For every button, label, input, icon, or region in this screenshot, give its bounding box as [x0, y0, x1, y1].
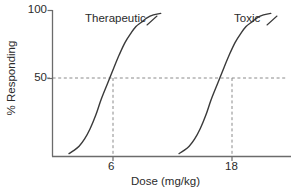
y-axis-tick-label-50: 50 [34, 72, 47, 84]
dose-response-chart: 100 50 % Responding 6 18 Dose (mg/kg) Th… [0, 0, 296, 194]
x-axis-tick-label-18: 18 [225, 161, 238, 173]
y-axis-title-container: % Responding [0, 0, 22, 156]
curve-toxic [179, 13, 271, 153]
curve-therapeutic [69, 13, 161, 153]
x-axis-tick-label-6: 6 [108, 161, 114, 173]
curve-label-toxic: Toxic [234, 13, 260, 25]
curve-label-therapeutic: Therapeutic [85, 13, 146, 25]
x-axis-title: Dose (mg/kg) [131, 176, 200, 188]
leader-toxic-icon [267, 16, 277, 25]
y-axis-title: % Responding [5, 41, 17, 116]
y-axis-tick-label-100: 100 [28, 4, 47, 16]
chart-canvas [0, 0, 296, 194]
